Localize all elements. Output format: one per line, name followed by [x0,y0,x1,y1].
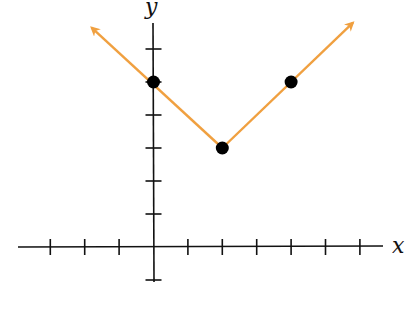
data-point [216,142,229,155]
coordinate-plane: x y [0,0,418,312]
data-points [147,76,298,155]
y-axis-label: y [144,0,158,19]
x-axis [18,246,383,247]
graph-left-branch [92,28,223,148]
y-axis [153,23,154,282]
data-point [285,76,298,89]
data-point [147,76,160,89]
function-graph [92,23,353,148]
x-axis-label: x [392,233,405,258]
